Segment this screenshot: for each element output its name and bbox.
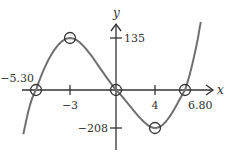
y-axis-label: y (112, 6, 120, 20)
y-tick-label: 135 (124, 32, 145, 45)
intercept-label: 6.80 (188, 99, 213, 112)
chart: −34135−208xy−5.306.80 (0, 0, 233, 162)
y-tick-label: −208 (78, 122, 108, 135)
x-axis-label: x (217, 83, 224, 97)
x-tick-label: −3 (62, 99, 78, 112)
x-tick-label: 4 (152, 99, 159, 112)
axes (22, 24, 213, 150)
intercept-label: −5.30 (0, 72, 34, 85)
series-line-curve (23, 22, 201, 134)
curve-layer (23, 22, 201, 134)
